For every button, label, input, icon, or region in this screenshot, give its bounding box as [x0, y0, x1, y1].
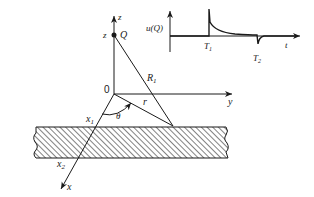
- r-label: r: [143, 96, 147, 107]
- theta-label: θ: [116, 111, 121, 121]
- t1-label: T1: [204, 41, 212, 52]
- slant-line-R1: [114, 35, 173, 126]
- z-height-label: z: [102, 30, 107, 40]
- svg-text:T2: T2: [253, 53, 261, 64]
- waveform-curve: [170, 9, 296, 44]
- source-label-q: Q: [120, 29, 128, 40]
- r1-label: R1: [146, 72, 157, 85]
- inset-waveform-plot: u(Q) t T1 T2: [146, 9, 300, 64]
- x1-label: x1: [85, 113, 94, 126]
- t2-label: T2: [253, 53, 261, 64]
- y-axis-label: y: [227, 96, 233, 107]
- x-axis-label: x: [66, 181, 72, 192]
- inset-xlabel: t: [285, 40, 288, 50]
- hatched-layer: [34, 127, 229, 158]
- svg-text:T1: T1: [204, 41, 212, 52]
- x2-label: x2: [56, 158, 65, 171]
- diagram-canvas: z z Q 0 y x R1 r θ x1 x2 u(Q) t T1 T2: [0, 0, 314, 197]
- svg-text:R1: R1: [146, 72, 157, 85]
- svg-text:x1: x1: [85, 113, 94, 126]
- svg-text:x2: x2: [56, 158, 65, 171]
- origin-label: 0: [104, 84, 110, 95]
- z-axis-label: z: [117, 12, 122, 22]
- inset-ylabel: u(Q): [146, 23, 163, 33]
- source-point-q: [112, 33, 117, 38]
